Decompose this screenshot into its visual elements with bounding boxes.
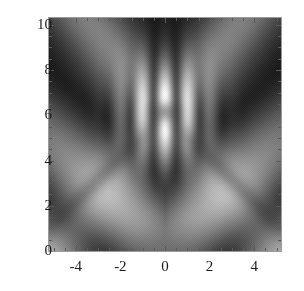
- y-tick-label: 2: [45, 198, 53, 213]
- y-tick-label: 0: [45, 243, 53, 258]
- x-tick-label: 0: [161, 259, 169, 274]
- y-tick-label: 6: [45, 107, 53, 122]
- density-plot-figure: 1086420 -4-2024: [0, 0, 304, 291]
- x-tick-label: 4: [250, 259, 258, 274]
- y-tick-label: 8: [45, 62, 53, 77]
- x-tick-label: -4: [70, 259, 83, 274]
- density-heatmap-canvas: [49, 18, 281, 251]
- y-tick-label: 10: [37, 17, 52, 32]
- x-tick-label: -2: [114, 259, 127, 274]
- plot-frame: [48, 17, 282, 252]
- y-tick-major-right: [276, 251, 281, 252]
- y-tick-label: 4: [45, 153, 53, 168]
- x-tick-label: 2: [206, 259, 214, 274]
